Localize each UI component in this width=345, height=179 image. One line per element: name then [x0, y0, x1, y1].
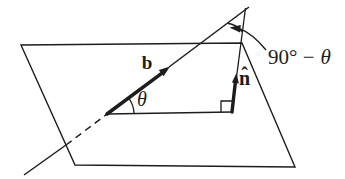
theta-label: θ: [137, 88, 147, 110]
figure-plane-line-angle-diagram: b θ n ˆ 90° −θ: [0, 0, 345, 179]
complement-angle-label-prefix: 90° −: [268, 45, 315, 69]
normal-vector-shaft: [232, 80, 236, 112]
line-hidden-dashed: [66, 114, 107, 145]
normal-vector-arrowhead: [232, 73, 239, 83]
in-plane-reference-line: [107, 112, 232, 114]
normal-hat-accent: ˆ: [241, 64, 248, 86]
complement-angle-label: 90° −θ: [268, 45, 331, 69]
complement-angle-label-theta: θ: [321, 45, 331, 69]
diagram-canvas: b θ n ˆ 90° −θ: [0, 0, 345, 179]
theta-angle-arc: [129, 98, 134, 114]
vector-b-shaft: [107, 72, 163, 114]
line-above-plane: [169, 7, 249, 67]
line-below-plane: [24, 145, 66, 175]
vector-b-label: b: [142, 52, 153, 73]
